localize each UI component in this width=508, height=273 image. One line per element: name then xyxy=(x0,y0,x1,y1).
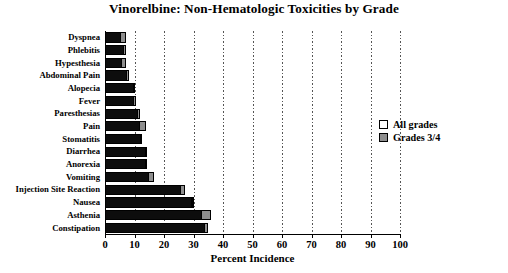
legend-label-all-grades: All grades xyxy=(393,119,437,130)
bar-grades-34 xyxy=(191,197,194,207)
bar-grades-34 xyxy=(121,58,125,68)
x-tick-0 xyxy=(105,234,106,238)
bar-grades-34 xyxy=(148,172,154,182)
bar-all-grades xyxy=(105,96,136,106)
x-axis-title: Percent Incidence xyxy=(105,252,400,264)
bar-grades-34 xyxy=(133,96,136,106)
y-axis-label-hypesthesia: Hypesthesia xyxy=(55,58,100,68)
x-tick-100 xyxy=(400,234,401,238)
bar-all-grades xyxy=(105,185,185,195)
y-axis-category-labels: DyspneaPhlebitisHypesthesiaAbdominal Pai… xyxy=(0,31,103,234)
x-tick-80 xyxy=(341,234,342,238)
x-tick-label-80: 80 xyxy=(336,239,347,250)
bar-all-grades xyxy=(105,172,154,182)
y-axis-label-nausea: Nausea xyxy=(73,197,100,207)
x-tick-label-30: 30 xyxy=(188,239,199,250)
legend-item-grades-34: Grades 3/4 xyxy=(379,131,440,143)
bar-all-grades xyxy=(105,147,146,157)
y-axis-label-phlebitis: Phlebitis xyxy=(68,45,100,55)
bar-all-grades xyxy=(105,159,146,169)
bar-row xyxy=(105,44,400,57)
x-tick-label-50: 50 xyxy=(247,239,258,250)
bar-grades-34 xyxy=(145,147,147,157)
bar-grades-34 xyxy=(139,121,146,131)
y-axis-label-stomatitis: Stomatitis xyxy=(62,134,100,144)
y-axis-label-injection-site-reaction: Injection Site Reaction xyxy=(16,184,100,194)
bar-row xyxy=(105,94,400,107)
x-tick-label-70: 70 xyxy=(306,239,317,250)
bar-row xyxy=(105,69,400,82)
legend-item-all-grades: All grades xyxy=(379,118,440,130)
plot-area: 0102030405060708090100 xyxy=(105,31,400,234)
x-tick-90 xyxy=(371,234,372,238)
y-axis-label-constipation: Constipation xyxy=(52,223,100,233)
x-tick-label-100: 100 xyxy=(392,239,408,250)
bar-grades-34 xyxy=(140,134,142,144)
bar-row xyxy=(105,120,400,133)
bar-row xyxy=(105,221,400,234)
y-axis-label-pain: Pain xyxy=(83,121,100,131)
legend-swatch-grades-34-icon xyxy=(379,133,388,142)
y-axis-label-diarrhea: Diarrhea xyxy=(66,146,100,156)
y-axis-label-dyspnea: Dyspnea xyxy=(68,32,100,42)
bar-row xyxy=(105,209,400,222)
x-tick-20 xyxy=(164,234,165,238)
x-tick-50 xyxy=(253,234,254,238)
bar-row xyxy=(105,56,400,69)
bar-grades-34 xyxy=(126,70,129,80)
x-tick-label-40: 40 xyxy=(218,239,229,250)
bar-all-grades xyxy=(105,134,142,144)
chart-title: Vinorelbine: Non-Hematologic Toxicities … xyxy=(0,1,508,17)
y-axis-label-paresthesias: Paresthesias xyxy=(54,108,100,118)
bar-all-grades xyxy=(105,223,208,233)
bar-grades-34 xyxy=(123,45,126,55)
x-tick-10 xyxy=(135,234,136,238)
legend-swatch-all-grades-icon xyxy=(379,120,388,129)
bar-grades-34 xyxy=(137,109,140,119)
y-axis-label-fever: Fever xyxy=(79,96,100,106)
bar-all-grades xyxy=(105,109,140,119)
bar-grades-34 xyxy=(204,223,208,233)
bar-row xyxy=(105,158,400,171)
chart-legend: All grades Grades 3/4 xyxy=(379,118,440,144)
bar-row xyxy=(105,171,400,184)
bar-row xyxy=(105,82,400,95)
x-tick-label-60: 60 xyxy=(277,239,288,250)
bar-row xyxy=(105,107,400,120)
x-tick-40 xyxy=(223,234,224,238)
x-tick-30 xyxy=(194,234,195,238)
x-tick-60 xyxy=(282,234,283,238)
y-axis-label-vomiting: Vomiting xyxy=(66,172,100,182)
y-axis-label-anorexia: Anorexia xyxy=(66,159,100,169)
bar-row xyxy=(105,31,400,44)
bar-all-grades xyxy=(105,197,194,207)
y-axis-label-asthenia: Asthenia xyxy=(67,210,100,220)
bar-grades-34 xyxy=(133,83,135,93)
bar-all-grades xyxy=(105,210,211,220)
bar-grades-34 xyxy=(201,210,211,220)
legend-label-grades-34: Grades 3/4 xyxy=(393,132,440,143)
y-axis-label-abdominal-pain: Abdominal Pain xyxy=(39,70,100,80)
bar-row xyxy=(105,133,400,146)
x-tick-label-10: 10 xyxy=(129,239,140,250)
bar-all-grades xyxy=(105,83,135,93)
bar-grades-34 xyxy=(120,32,126,42)
bar-row xyxy=(105,183,400,196)
x-tick-label-0: 0 xyxy=(102,239,107,250)
bar-row xyxy=(105,196,400,209)
bar-grades-34 xyxy=(180,185,184,195)
x-tick-label-20: 20 xyxy=(159,239,170,250)
bar-row xyxy=(105,145,400,158)
chart-container: Vinorelbine: Non-Hematologic Toxicities … xyxy=(0,0,508,273)
y-axis-label-alopecia: Alopecia xyxy=(68,83,100,93)
x-tick-70 xyxy=(312,234,313,238)
bar-grades-34 xyxy=(145,159,147,169)
x-tick-label-90: 90 xyxy=(365,239,376,250)
